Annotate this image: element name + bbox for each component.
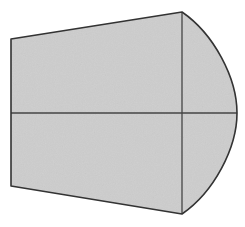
figure-canvas [0, 0, 245, 227]
shape-diagram-svg [0, 0, 245, 227]
